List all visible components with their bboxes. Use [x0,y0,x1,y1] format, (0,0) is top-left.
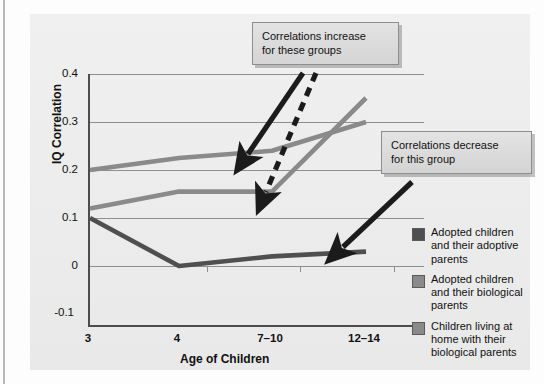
legend-swatch-icon-3 [412,322,425,335]
figure-root: IQ Correlation Age of Children 0.4 0.3 0… [0,0,544,384]
callout-increase-line1: Correlations increase [262,29,390,43]
legend-label-1: Adopted children and their adoptive pare… [431,226,530,266]
annotation-arrow-solid-lower [343,182,412,247]
chart-panel: IQ Correlation Age of Children 0.4 0.3 0… [30,14,530,370]
legend-label-2: Adopted children and their biological pa… [431,273,530,313]
legend-item-children-at-home: Children living at home with their biolo… [412,320,530,360]
callout-correlations-increase: Correlations increase for these groups [252,22,399,65]
callout-increase-line2: for these groups [262,43,390,57]
chart-legend: Adopted children and their adoptive pare… [412,226,530,367]
legend-item-adopted-biological: Adopted children and their biological pa… [412,273,530,313]
callout-decrease-line2: for this group [391,152,523,166]
series-line-adopted-adoptive [90,218,366,266]
callout-correlations-decrease: Correlations decrease for this group [381,131,532,174]
callout-decrease-line1: Correlations decrease [391,138,523,152]
legend-swatch-icon-2 [412,275,425,288]
series-line-children-at-home [90,122,366,170]
legend-label-3: Children living at home with their biolo… [431,320,530,360]
legend-swatch-icon-1 [412,228,425,241]
legend-item-adopted-adoptive: Adopted children and their adoptive pare… [412,226,530,266]
page-margin-rule [3,0,5,384]
